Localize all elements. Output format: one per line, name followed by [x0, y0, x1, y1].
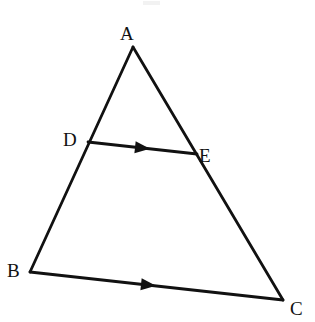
- geometry-figure: A B C D E: [0, 0, 315, 322]
- vertex-label-c: C: [290, 299, 303, 318]
- vertex-label-a: A: [120, 24, 134, 43]
- point-label-e: E: [199, 146, 211, 165]
- de-arrow-icon: [134, 141, 150, 155]
- vertex-label-b: B: [7, 261, 20, 280]
- segment-bc: [30, 272, 283, 300]
- geometry-canvas: [0, 0, 315, 322]
- segment-ab: [30, 47, 133, 272]
- point-label-d: D: [63, 130, 77, 149]
- bc-arrow-icon: [140, 278, 156, 292]
- segment-ac: [133, 47, 283, 300]
